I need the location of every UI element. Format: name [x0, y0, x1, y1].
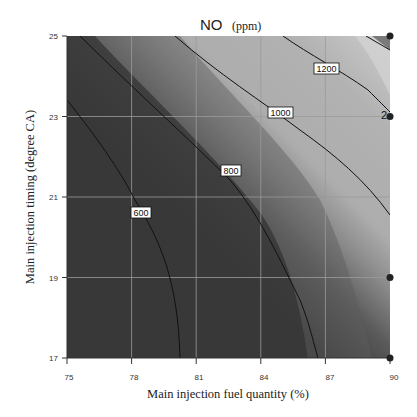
svg-text:81: 81 [195, 373, 204, 382]
contour-label-1000: 1000 [268, 107, 293, 118]
svg-text:21: 21 [49, 193, 58, 202]
design-point [387, 274, 394, 281]
plot-area: 600 800 1000 1200 [67, 36, 390, 358]
chart-title: NO (ppm) [200, 16, 261, 33]
y-tick-labels: 25 23 21 19 17 [49, 32, 58, 363]
svg-text:1000: 1000 [270, 108, 290, 118]
title-unit: (ppm) [232, 19, 261, 33]
svg-text:84: 84 [260, 373, 269, 382]
svg-text:600: 600 [133, 208, 148, 218]
svg-text:75: 75 [65, 373, 74, 382]
design-point [387, 113, 394, 120]
design-point [387, 33, 394, 40]
svg-text:25: 25 [49, 32, 58, 41]
contour-chart: NO (ppm) [0, 0, 417, 417]
svg-text:23: 23 [49, 113, 58, 122]
svg-text:87: 87 [326, 373, 335, 382]
title-text: NO [200, 16, 223, 33]
y-axis-label: Main injection timing (degree CA) [23, 110, 37, 284]
design-point [387, 355, 394, 362]
svg-text:1200: 1200 [316, 64, 336, 74]
svg-text:90: 90 [390, 373, 399, 382]
x-axis-label: Main injection fuel quantity (%) [147, 387, 309, 401]
contour-label-1200: 1200 [314, 63, 339, 74]
svg-text:800: 800 [223, 166, 238, 176]
contour-label-800: 800 [221, 165, 241, 176]
point-count-label: 2 [381, 109, 387, 121]
svg-text:17: 17 [49, 354, 58, 363]
contour-label-600: 600 [131, 207, 151, 218]
x-tick-labels: 75 78 81 84 87 90 [65, 373, 399, 382]
svg-text:19: 19 [49, 274, 58, 283]
svg-text:78: 78 [130, 373, 139, 382]
